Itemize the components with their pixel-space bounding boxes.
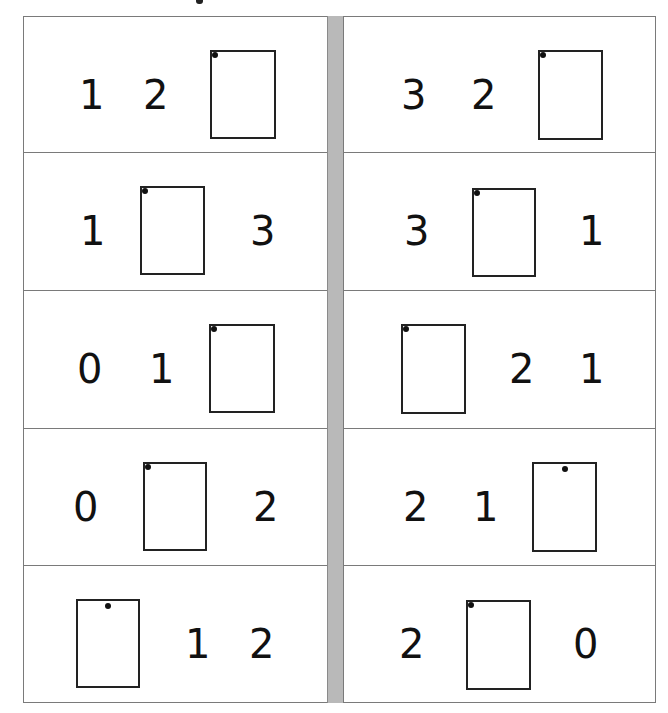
answer-box[interactable] bbox=[76, 599, 140, 688]
start-dot-icon bbox=[212, 52, 218, 58]
start-dot-icon bbox=[403, 326, 409, 332]
answer-box[interactable] bbox=[140, 186, 205, 275]
answer-box[interactable] bbox=[472, 188, 536, 277]
answer-box[interactable] bbox=[538, 50, 603, 140]
number-label: 1 bbox=[473, 487, 498, 527]
worksheet-row: 21 bbox=[344, 429, 655, 566]
worksheet-row: 13 bbox=[24, 153, 327, 291]
column-divider bbox=[327, 16, 344, 703]
number-label: 3 bbox=[401, 75, 426, 115]
number-label: 0 bbox=[73, 487, 98, 527]
number-label: 0 bbox=[77, 349, 102, 389]
cropped-heading-fragment bbox=[196, 0, 203, 4]
number-label: 1 bbox=[579, 211, 604, 251]
number-label: 1 bbox=[579, 349, 604, 389]
number-label: 2 bbox=[249, 624, 274, 664]
answer-box[interactable] bbox=[210, 50, 276, 139]
start-dot-icon bbox=[145, 464, 151, 470]
start-dot-icon bbox=[540, 52, 546, 58]
number-label: 2 bbox=[471, 75, 496, 115]
number-label: 0 bbox=[573, 624, 598, 664]
answer-box[interactable] bbox=[401, 324, 466, 414]
number-label: 1 bbox=[149, 349, 174, 389]
answer-box[interactable] bbox=[532, 462, 597, 552]
number-label: 2 bbox=[403, 487, 428, 527]
number-label: 3 bbox=[250, 211, 275, 251]
worksheet-row: 01 bbox=[24, 291, 327, 429]
answer-box[interactable] bbox=[143, 462, 207, 551]
worksheet-row: 31 bbox=[344, 153, 655, 291]
start-dot-icon bbox=[105, 603, 111, 609]
number-label: 1 bbox=[80, 211, 105, 251]
worksheet-row: 20 bbox=[344, 566, 655, 704]
start-dot-icon bbox=[474, 190, 480, 196]
start-dot-icon bbox=[468, 602, 474, 608]
number-label: 1 bbox=[79, 75, 104, 115]
start-dot-icon bbox=[562, 466, 568, 472]
number-label: 1 bbox=[185, 624, 210, 664]
answer-box[interactable] bbox=[466, 600, 531, 690]
worksheet-row: 12 bbox=[24, 566, 327, 704]
left-worksheet-column: 1213010212 bbox=[23, 16, 328, 703]
worksheet-row: 32 bbox=[344, 17, 655, 153]
worksheet-row: 12 bbox=[24, 17, 327, 153]
number-label: 2 bbox=[143, 75, 168, 115]
number-label: 2 bbox=[509, 349, 534, 389]
worksheet-row: 21 bbox=[344, 291, 655, 429]
answer-box[interactable] bbox=[209, 324, 275, 413]
number-label: 3 bbox=[404, 211, 429, 251]
start-dot-icon bbox=[211, 326, 217, 332]
number-label: 2 bbox=[399, 624, 424, 664]
right-worksheet-column: 3231212120 bbox=[343, 16, 656, 703]
worksheet-row: 02 bbox=[24, 429, 327, 566]
number-label: 2 bbox=[253, 487, 278, 527]
start-dot-icon bbox=[142, 188, 148, 194]
